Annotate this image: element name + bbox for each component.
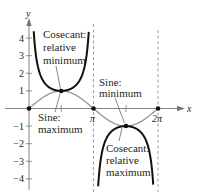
point-sin-max — [59, 89, 64, 94]
point-2pi — [156, 106, 161, 111]
y-axis — [26, 18, 32, 190]
x-tick-2pi: 2π — [152, 113, 163, 124]
y-axis-arrow-icon — [26, 18, 31, 26]
leader-csc-min — [56, 66, 61, 89]
x-axis-label: x — [186, 103, 192, 114]
leader-sin-min — [115, 98, 125, 123]
y-tick-label: 2 — [19, 68, 24, 79]
y-tick-label: −2 — [13, 138, 24, 149]
leader-csc-max — [119, 128, 122, 141]
y-tick-label: −3 — [13, 156, 24, 167]
point-pi — [91, 106, 96, 111]
x-axis-arrow-icon — [177, 106, 185, 111]
y-tick-label: 4 — [19, 33, 24, 44]
annotation-sin-max: Sine: maximum — [38, 111, 83, 135]
point-origin — [27, 106, 32, 111]
point-sin-min — [124, 124, 129, 129]
y-axis-label: y — [25, 8, 31, 19]
y-tick-label: −1 — [13, 121, 24, 132]
annotation-csc-max: Cosecant: relative maximum — [106, 142, 152, 178]
y-tick-label: −4 — [13, 173, 24, 184]
leader-sin-max — [55, 94, 60, 112]
y-tick-label: 3 — [19, 50, 24, 61]
annotation-sin-min: Sine: minimum — [99, 76, 142, 99]
y-tick-label: 1 — [19, 85, 24, 96]
sine-cosecant-chart: y x π 2π 4321−1−2−3−4 Cosecant: relative… — [0, 0, 208, 195]
x-tick-pi: π — [90, 113, 96, 124]
